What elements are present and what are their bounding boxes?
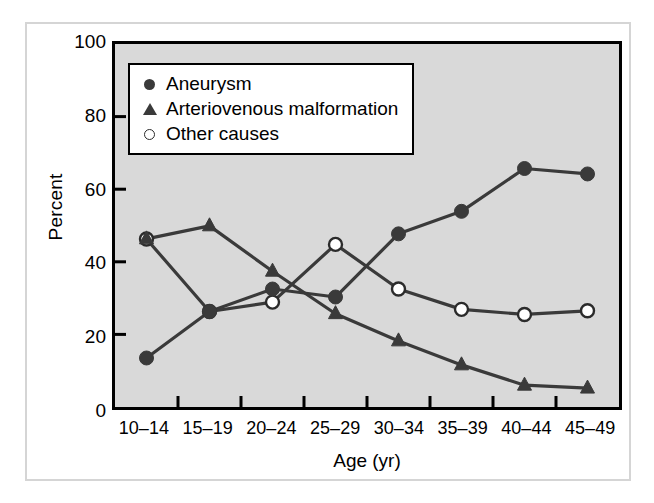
x-tick-label: 20–24 [240, 418, 304, 444]
y-tick-label: 100 [62, 32, 106, 51]
data-point-marker [140, 351, 154, 365]
legend-item-label: Arteriovenous malformation [162, 98, 398, 120]
axis-ticks [115, 117, 556, 407]
y-tick-label: 40 [62, 253, 106, 272]
legend-item-label: Aneurysm [162, 73, 252, 95]
filled-triangle-icon [140, 98, 162, 120]
data-point-marker [455, 204, 469, 218]
data-point-marker [266, 296, 279, 309]
data-point-marker [455, 303, 468, 316]
legend-item-label: Other causes [162, 123, 279, 145]
data-point-marker [581, 167, 595, 181]
data-point-marker [203, 218, 217, 231]
open-circle-icon [140, 123, 162, 145]
x-tick-label: 30–34 [367, 418, 431, 444]
data-point-marker [581, 304, 594, 317]
series-line [147, 239, 588, 315]
data-point-marker [392, 283, 405, 296]
filled-circle-icon [140, 73, 162, 95]
y-tick-label: 20 [62, 327, 106, 346]
x-tick-label: 45–49 [558, 418, 622, 444]
x-tick-label: 25–29 [303, 418, 367, 444]
x-axis-tick-labels: 10–14 15–19 20–24 25–29 30–34 35–39 40–4… [112, 418, 622, 444]
x-tick-label: 40–44 [495, 418, 559, 444]
y-axis-title: Percent [45, 147, 67, 267]
x-tick-label: 15–19 [176, 418, 240, 444]
y-tick-label: 60 [62, 180, 106, 199]
data-point-marker [518, 162, 532, 176]
data-point-marker [518, 308, 531, 321]
legend-item-other-causes: Other causes [140, 121, 398, 146]
legend-item-arteriovenous-malformation: Arteriovenous malformation [140, 96, 398, 121]
x-tick-label: 35–39 [431, 418, 495, 444]
data-point-marker [266, 282, 280, 296]
x-axis-title: Age (yr) [112, 450, 622, 472]
x-tick-label: 10–14 [112, 418, 176, 444]
series-line [147, 169, 588, 358]
data-point-marker [392, 227, 406, 241]
y-tick-label: 80 [62, 106, 106, 125]
legend-item-aneurysm: Aneurysm [140, 71, 398, 96]
data-point-marker [329, 290, 343, 304]
figure-root: 100 80 60 40 20 0 Percent 10–14 15–19 20… [0, 0, 654, 503]
y-tick-label: 0 [62, 401, 106, 420]
data-point-marker [329, 238, 342, 251]
chart-legend: Aneurysm Arteriovenous malformation Othe… [128, 63, 414, 155]
data-point-marker [203, 305, 217, 319]
